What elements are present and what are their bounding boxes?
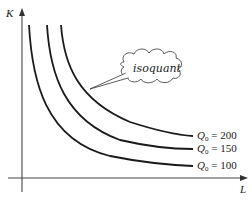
y-axis-arrow-icon	[19, 8, 25, 16]
curve-label-150: Q0 = 150	[197, 143, 237, 156]
x-axis-arrow-icon	[240, 175, 248, 181]
curve-label-value: = 150	[208, 142, 236, 154]
isoquant-curve-100	[29, 25, 193, 166]
isoquant-curve-150	[47, 25, 193, 149]
curve-label-var: Q	[197, 142, 205, 154]
curve-label-value: = 200	[208, 129, 236, 141]
x-axis-label: L	[240, 184, 246, 195]
curve-label-100: Q0 = 100	[197, 160, 237, 173]
curve-label-var: Q	[197, 129, 205, 141]
curve-label-var: Q	[197, 159, 205, 171]
curve-label-value: = 100	[208, 159, 236, 171]
callout-text: isoquant	[133, 62, 181, 75]
isoquant-curve-200	[61, 25, 193, 136]
y-axis-label: K	[6, 8, 13, 19]
